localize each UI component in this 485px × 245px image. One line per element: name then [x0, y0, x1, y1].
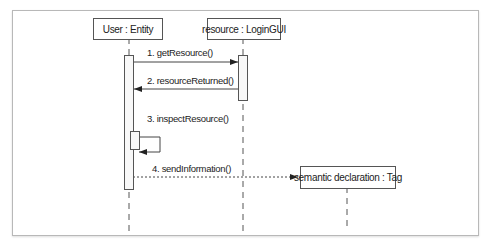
activation-user	[124, 55, 134, 190]
message-inspect-resource: 3. inspectResource()	[147, 113, 229, 124]
lifeline-label: semantic declaration : Tag	[294, 172, 402, 183]
lifeline-label: resource : LoginGUI	[202, 24, 286, 35]
message-resource-returned: 2. resourceReturned()	[147, 75, 234, 86]
message-send-information: 4. sendInformation()	[152, 163, 231, 174]
lifeline-label: User : Entity	[103, 24, 154, 35]
lifeline-user-entity: User : Entity	[93, 18, 163, 40]
lifeline-resource-logingui: resource : LoginGUI	[207, 18, 281, 40]
activation-resource	[238, 55, 248, 101]
lifeline-semantic-declaration-tag: semantic declaration : Tag	[300, 166, 396, 189]
message-get-resource: 1. getResource()	[147, 47, 213, 58]
activation-self	[130, 131, 140, 150]
